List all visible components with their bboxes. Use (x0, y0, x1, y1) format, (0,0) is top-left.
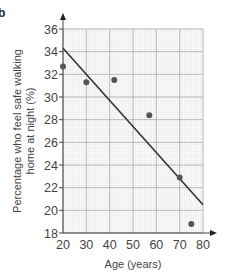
y-axis-ticks: 18202224262830323436 (44, 23, 63, 241)
y-tick-label: 26 (44, 136, 58, 150)
y-tick-label: 28 (44, 113, 58, 127)
y-tick-label: 24 (44, 159, 58, 173)
x-tick-label: 40 (103, 238, 117, 252)
y-axis-arrow-icon (60, 13, 66, 20)
data-point (146, 112, 152, 118)
y-tick-label: 22 (44, 181, 58, 195)
data-point (83, 79, 89, 85)
data-point (177, 174, 183, 180)
y-axis-title-line1: Percentage who feel safe walking (11, 49, 23, 213)
y-tick-label: 30 (44, 91, 58, 105)
x-tick-label: 20 (56, 238, 70, 252)
question-part-label: b (0, 6, 5, 20)
y-tick-label: 36 (44, 23, 58, 37)
x-axis-title: Age (years) (105, 258, 162, 270)
x-axis-ticks: 20304050607080 (56, 238, 210, 252)
y-tick-label: 20 (44, 204, 58, 218)
x-tick-label: 60 (149, 238, 163, 252)
y-tick-label: 32 (44, 68, 58, 82)
y-tick-label: 34 (44, 45, 58, 59)
x-tick-label: 80 (196, 238, 210, 252)
y-axis-title-line2: home at night (%) (24, 88, 36, 175)
chart: b 18202224262830323436 20304050607080 Ag… (0, 0, 228, 276)
data-point (111, 77, 117, 83)
data-point (188, 221, 194, 227)
x-tick-label: 50 (126, 238, 140, 252)
x-axis-arrow-icon (210, 230, 217, 236)
x-tick-label: 30 (79, 238, 93, 252)
x-tick-label: 70 (173, 238, 187, 252)
data-point (60, 63, 66, 69)
